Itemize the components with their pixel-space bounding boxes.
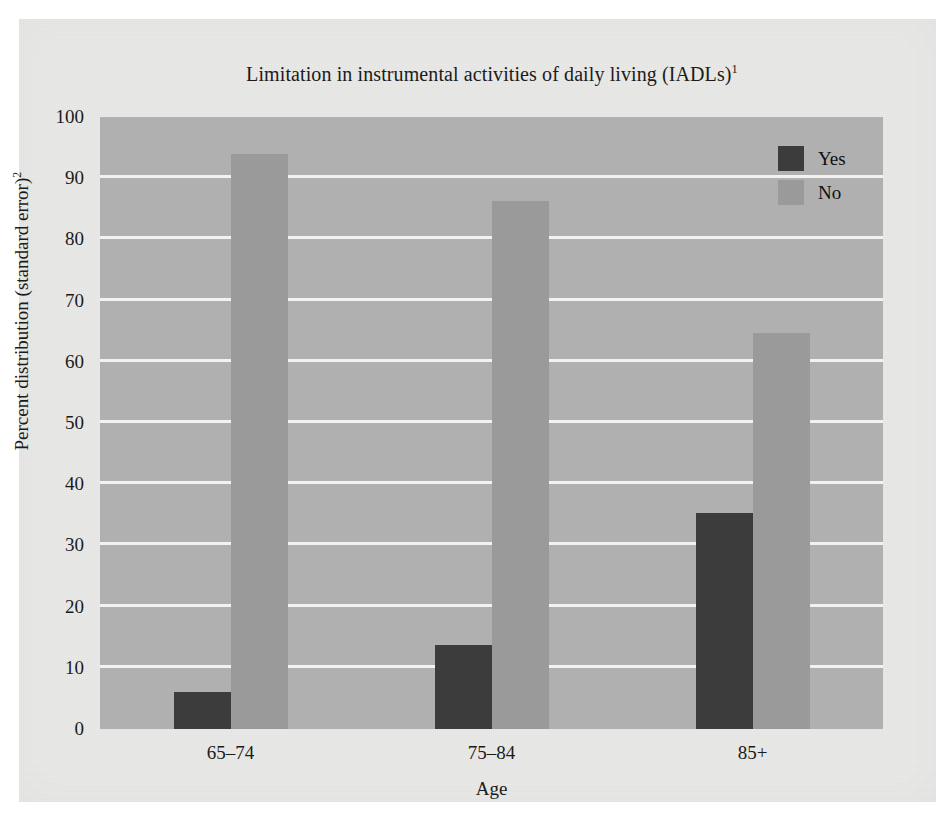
legend-swatch-yes — [778, 146, 804, 171]
x-axis-label: Age — [100, 778, 883, 800]
legend-swatch-no — [778, 180, 804, 205]
x-tick-7584: 75–84 — [392, 742, 592, 764]
chart-title-footnote-marker: 1 — [732, 62, 738, 76]
chart-legend: YesNo — [778, 141, 898, 209]
y-tick-40: 40 — [0, 473, 84, 495]
chart-title-text: Limitation in instrumental activities of… — [246, 63, 731, 85]
x-tick-6574: 65–74 — [131, 742, 331, 764]
y-tick-30: 30 — [0, 534, 84, 556]
legend-label-no: No — [818, 183, 841, 202]
bar-no-6574 — [231, 154, 288, 729]
x-tick-85: 85+ — [653, 742, 853, 764]
bar-no-85 — [753, 333, 810, 729]
plot-area — [100, 117, 883, 729]
bar-yes-6574 — [174, 692, 231, 729]
y-tick-10: 10 — [0, 657, 84, 679]
y-tick-0: 0 — [0, 718, 84, 740]
y-tick-50: 50 — [0, 412, 84, 434]
bar-no-7584 — [492, 201, 549, 729]
legend-label-yes: Yes — [818, 149, 846, 168]
gridline-90 — [100, 175, 883, 178]
legend-item-yes[interactable]: Yes — [778, 141, 898, 175]
y-tick-60: 60 — [0, 351, 84, 373]
y-axis-label-text: Percent distribution (standard error) — [11, 178, 32, 451]
bar-yes-85 — [696, 513, 753, 729]
y-tick-70: 70 — [0, 290, 84, 312]
y-tick-90: 90 — [0, 167, 84, 189]
y-tick-100: 100 — [0, 106, 84, 128]
bar-yes-7584 — [435, 645, 492, 729]
y-tick-20: 20 — [0, 596, 84, 618]
y-tick-80: 80 — [0, 228, 84, 250]
legend-item-no[interactable]: No — [778, 175, 898, 209]
chart-title: Limitation in instrumental activities of… — [100, 62, 884, 86]
